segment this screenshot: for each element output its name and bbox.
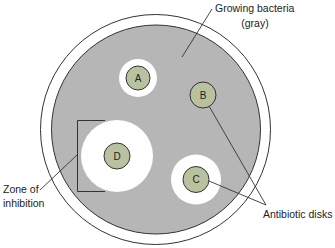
label-zone-of: Zone of [3, 183, 39, 195]
antibiotic-disk-c: C [183, 167, 209, 193]
label-growing-bacteria: Growing bacteria [215, 2, 295, 14]
disk-label-a: A [135, 73, 142, 84]
antibiotic-disk-a: A [126, 66, 150, 90]
label-inhibition: inhibition [3, 197, 45, 209]
disk-label-b: B [200, 90, 207, 101]
label-antibiotic-disks: Antibiotic disks [263, 208, 332, 220]
label-gray: (gray) [241, 17, 268, 29]
disk-label-d: D [113, 151, 120, 162]
antibiotic-disk-d: D [104, 143, 130, 169]
petri-dish-diagram: A B D C Growing bacteria (gray) Zone of … [0, 0, 335, 248]
antibiotic-disk-b: B [190, 82, 216, 108]
disk-label-c: C [192, 174, 199, 185]
bacteria-lawn [52, 25, 261, 234]
